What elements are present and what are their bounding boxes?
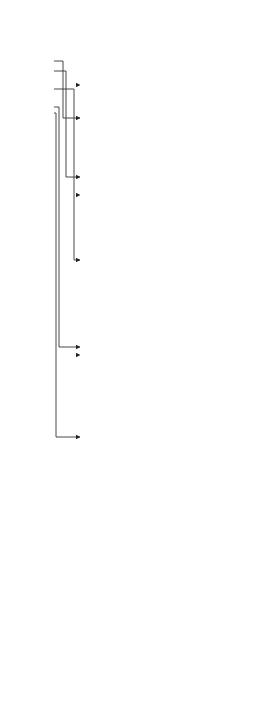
- figure-rotated: [0, 0, 274, 707]
- connectors: [0, 0, 274, 707]
